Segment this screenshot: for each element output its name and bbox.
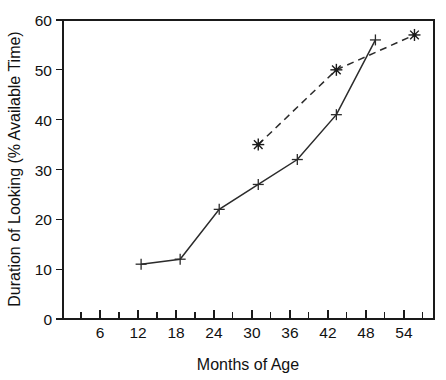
y-tick-50: 50 <box>35 62 53 79</box>
y-axis-ticks <box>56 20 63 319</box>
data-point <box>330 64 342 76</box>
x-axis-title: Months of Age <box>197 356 299 373</box>
data-point <box>252 139 264 151</box>
y-tick-40: 40 <box>35 112 53 129</box>
x-tick-30: 30 <box>243 324 261 341</box>
data-point <box>408 29 420 41</box>
y-tick-30: 30 <box>35 162 53 179</box>
data-point <box>370 34 381 45</box>
x-tick-42: 42 <box>319 324 336 341</box>
marker-star-core <box>256 142 260 146</box>
marker-star-core <box>412 33 416 37</box>
plot-frame <box>63 20 434 319</box>
y-axis-labels: 0 10 20 30 40 50 60 <box>35 12 53 328</box>
x-tick-48: 48 <box>357 324 374 341</box>
line-chart: 0 10 20 30 40 50 60 Duration of Looking … <box>0 0 446 380</box>
series-dashed-series <box>252 29 420 151</box>
x-tick-54: 54 <box>395 324 413 341</box>
marker-star-core <box>334 68 338 72</box>
y-tick-10: 10 <box>35 261 53 278</box>
x-tick-24: 24 <box>205 324 223 341</box>
x-axis-labels: 6 12 18 24 30 36 42 48 54 <box>96 324 413 341</box>
series-layer <box>136 29 421 270</box>
series-line-dashed-series <box>258 35 414 145</box>
series-solid-series <box>136 34 381 269</box>
x-tick-12: 12 <box>129 324 146 341</box>
chart-figure: 0 10 20 30 40 50 60 Duration of Looking … <box>0 0 446 380</box>
y-tick-0: 0 <box>43 311 52 328</box>
y-axis-title: Duration of Looking (% Available Time) <box>6 31 23 306</box>
x-tick-18: 18 <box>167 324 184 341</box>
data-point <box>253 179 264 190</box>
x-tick-36: 36 <box>281 324 298 341</box>
x-tick-6: 6 <box>96 324 105 341</box>
x-axis-ticks <box>100 310 404 319</box>
y-tick-60: 60 <box>35 12 53 29</box>
data-point <box>136 259 147 270</box>
y-tick-20: 20 <box>35 211 53 228</box>
